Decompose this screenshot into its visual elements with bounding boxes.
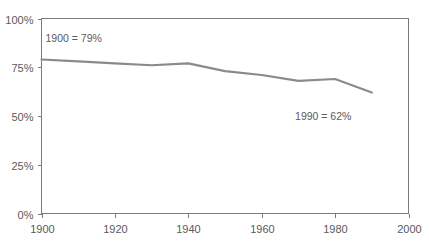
x-tick-label: 2000	[397, 223, 421, 235]
y-axis-tick-labels: 0%25%50%75%100%	[5, 14, 33, 221]
end-annotation: 1990 = 62%	[295, 110, 351, 122]
y-tick-label: 100%	[5, 14, 33, 26]
chart-container: 0%25%50%75%100% 190019201940196019802000…	[0, 0, 429, 241]
start-annotation: 1900 = 79%	[46, 32, 102, 44]
y-tick-label: 0%	[18, 209, 34, 221]
x-tick-label: 1920	[103, 223, 127, 235]
annotation-group: 1900 = 79%1990 = 62%	[46, 32, 352, 122]
x-axis-ticks	[43, 214, 410, 218]
plot-frame	[42, 19, 409, 214]
y-axis-ticks	[38, 20, 42, 215]
y-tick-label: 50%	[11, 111, 33, 123]
y-tick-label: 75%	[11, 62, 33, 74]
x-tick-label: 1940	[176, 223, 200, 235]
data-series-group	[42, 59, 372, 92]
x-tick-label: 1900	[30, 223, 54, 235]
plot-border	[42, 19, 409, 214]
x-axis-tick-labels: 190019201940196019802000	[30, 223, 421, 235]
x-tick-label: 1960	[250, 223, 274, 235]
y-tick-label: 25%	[11, 160, 33, 172]
line-chart: 0%25%50%75%100% 190019201940196019802000…	[0, 0, 429, 241]
data-line-percentage	[42, 59, 372, 92]
x-tick-label: 1980	[323, 223, 347, 235]
